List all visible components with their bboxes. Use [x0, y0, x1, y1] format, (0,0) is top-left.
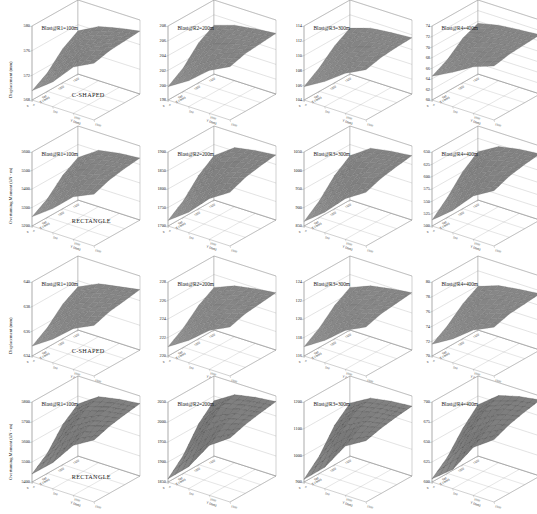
- y-tick-label: 0: [168, 485, 171, 489]
- z-tick-label: 76: [410, 309, 430, 314]
- surface-plot-panel-r3c1: Blast@R1=100mC-SHAPEDDisplacement (mm)64…: [2, 256, 136, 384]
- z-tick-label: 500: [410, 223, 430, 228]
- z-tick-label: 60: [410, 97, 430, 102]
- surface-plot-panel-r2c2: Blast@R2=200m190018501800175017000500100…: [138, 126, 272, 254]
- y-tick-label: 500: [189, 109, 195, 114]
- z-axis-label: Displacement (mm): [8, 317, 13, 354]
- z-tick-label: 640: [10, 279, 30, 284]
- y-tick-label: 500: [325, 491, 331, 496]
- surface-plot-panel-r1c3: Blast@R3=300m114112110108106104050010001…: [274, 0, 408, 128]
- plot-canvas-r4c3: [274, 378, 408, 506]
- z-tick-label: 74: [410, 324, 430, 329]
- z-tick-label: 220: [146, 353, 166, 358]
- panel-title: Blast@R2=200m: [178, 281, 214, 287]
- y-tick-label: 500: [453, 235, 459, 240]
- panel-title: Blast@R2=200m: [178, 25, 214, 31]
- z-tick-label: 576: [10, 48, 30, 53]
- z-tick-label: 204: [146, 53, 166, 58]
- y-tick-label: 0: [304, 359, 307, 363]
- y-tick-label: 0: [168, 359, 171, 363]
- z-tick-label: 74: [410, 23, 430, 28]
- y-tick-label: 0: [304, 485, 307, 489]
- z-tick-label: 700: [410, 399, 430, 404]
- z-tick-label: 634: [10, 353, 30, 358]
- y-tick-label: 500: [189, 365, 195, 370]
- z-tick-label: 200: [146, 83, 166, 88]
- z-tick-label: 1850: [146, 479, 166, 484]
- plot-canvas-r3c4: [402, 256, 536, 384]
- z-tick-label: 5600: [10, 439, 30, 444]
- z-tick-label: 5800: [10, 399, 30, 404]
- y-tick-label: 1500: [494, 504, 501, 510]
- z-tick-label: 66: [410, 66, 430, 71]
- z-tick-label: 900: [282, 479, 302, 484]
- z-axis-label: Displacement (mm): [8, 61, 13, 98]
- panel-title: Blast@R1=100m: [42, 281, 78, 287]
- z-tick-label: 650: [410, 439, 430, 444]
- z-tick-label: 638: [10, 304, 30, 309]
- surface-plot-panel-r2c4: Blast@R4=400m650625600575550525500050010…: [402, 126, 536, 254]
- y-tick-label: 500: [453, 109, 459, 114]
- z-tick-label: 198: [146, 97, 166, 102]
- z-tick-label: 625: [410, 459, 430, 464]
- surface-plot-panel-r4c2: Blast@R2=200m205020001950190018500500100…: [138, 378, 272, 506]
- y-tick-label: 500: [325, 365, 331, 370]
- z-tick-label: 1700: [146, 223, 166, 228]
- z-tick-label: 104: [282, 97, 302, 102]
- z-tick-label: 62: [410, 87, 430, 92]
- y-tick-label: 0: [32, 229, 35, 233]
- z-tick-label: 5600: [10, 149, 30, 154]
- shape-label: C-SHAPED: [72, 347, 105, 354]
- y-tick-label: 500: [453, 365, 459, 370]
- surface-plot-panel-r1c2: Blast@R2=200m208206204202200198050010001…: [138, 0, 272, 128]
- surface-plot-panel-r4c1: Blast@R1=100mRECTANGLEOverturning Moment…: [2, 378, 136, 506]
- panel-title: Blast@R3=300m: [314, 25, 350, 31]
- z-tick-label: 208: [146, 23, 166, 28]
- panel-title: Blast@R4=400m: [442, 281, 478, 287]
- z-tick-label: 5700: [10, 419, 30, 424]
- y-tick-label: 0: [32, 103, 35, 107]
- y-tick-label: 0: [32, 359, 35, 363]
- z-tick-label: 1850: [146, 168, 166, 173]
- z-tick-label: 5500: [10, 459, 30, 464]
- z-tick-label: 224: [146, 316, 166, 321]
- y-tick-label: 0: [304, 229, 307, 233]
- y-tick-label: 0: [432, 485, 435, 489]
- z-tick-label: 80: [410, 279, 430, 284]
- surface-plot-panel-r4c3: Blast@R3=300m120011001000900050010001500…: [274, 378, 408, 506]
- z-tick-label: 118: [282, 335, 302, 340]
- plot-canvas-r1c2: [138, 0, 272, 128]
- z-axis-label: Overturning Moment (kN - m): [8, 168, 13, 224]
- panel-title: Blast@R3=300m: [314, 281, 350, 287]
- surface-plot-panel-r1c1: Blast@R1=100mC-SHAPEDDisplacement (mm)58…: [2, 0, 136, 128]
- y-tick-label: 0: [304, 103, 307, 107]
- z-tick-label: 1000: [282, 168, 302, 173]
- y-tick-label: 0: [432, 229, 435, 233]
- z-tick-label: 124: [282, 279, 302, 284]
- z-tick-label: 1800: [146, 186, 166, 191]
- z-tick-label: 675: [410, 419, 430, 424]
- panel-title: Blast@R4=400m: [442, 401, 478, 407]
- z-tick-label: 1050: [282, 149, 302, 154]
- y-tick-label: 500: [325, 235, 331, 240]
- panel-title: Blast@R1=100m: [42, 151, 78, 157]
- surface-plot-panel-r2c3: Blast@R3=300m105010009509008500500100015…: [274, 126, 408, 254]
- surface-plot-panel-r2c1: Blast@R1=100mRECTANGLEOverturning Moment…: [2, 126, 136, 254]
- z-tick-label: 1950: [146, 439, 166, 444]
- surface-plot-panel-r4c4: Blast@R4=400m700675650625600050010001500…: [402, 378, 536, 506]
- z-tick-label: 114: [282, 23, 302, 28]
- y-tick-label: 0: [432, 359, 435, 363]
- z-tick-label: 580: [10, 23, 30, 28]
- z-tick-label: 1750: [146, 205, 166, 210]
- panel-title: Blast@R2=200m: [178, 401, 214, 407]
- z-tick-label: 70: [410, 45, 430, 50]
- z-tick-label: 2000: [146, 419, 166, 424]
- y-tick-label: 500: [53, 109, 59, 114]
- z-tick-label: 525: [410, 211, 430, 216]
- z-tick-label: 568: [10, 97, 30, 102]
- z-tick-label: 116: [282, 353, 302, 358]
- z-tick-label: 108: [282, 68, 302, 73]
- z-tick-label: 206: [146, 38, 166, 43]
- panel-title: Blast@R1=100m: [42, 401, 78, 407]
- z-tick-label: 1100: [282, 426, 302, 431]
